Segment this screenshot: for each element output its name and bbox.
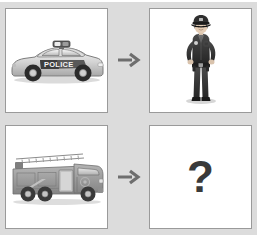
cell-wrap-police-car: POLICE Police car: [0, 2, 113, 119]
cell-wrap-fire-truck: Fire truck: [0, 119, 113, 236]
arrow-right-icon: [117, 168, 141, 186]
cell-unknown-answer[interactable]: ?: [149, 125, 252, 230]
cell-wrap-police-officer: Police officer: [144, 2, 257, 119]
arrow-right-icon: [117, 51, 141, 69]
svg-text:POLICE: POLICE: [44, 60, 73, 69]
arrow-wrap-row1: leads to: [113, 2, 144, 119]
analogy-puzzle: POLICE Police car: [0, 0, 259, 240]
question-mark-icon: ?: [187, 155, 214, 199]
puzzle-grid: POLICE Police car: [0, 2, 257, 235]
cell-wrap-unknown-answer: ?: [144, 119, 257, 236]
fire-truck-icon: [9, 146, 105, 208]
police-officer-icon: [178, 14, 224, 106]
cell-fire-truck[interactable]: Fire truck: [5, 125, 108, 230]
cell-police-car[interactable]: POLICE Police car: [5, 8, 108, 113]
police-car-icon: POLICE: [9, 34, 105, 86]
arrow-wrap-row2: leads to: [113, 119, 144, 236]
cell-police-officer[interactable]: Police officer: [149, 8, 252, 113]
